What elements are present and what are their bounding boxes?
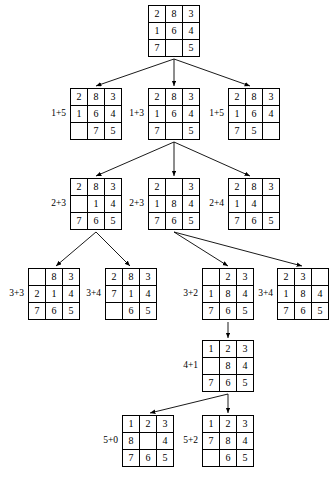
puzzle-row: 23 [203,269,254,286]
tree-edge [174,59,250,86]
puzzle-tile: 7 [106,286,123,303]
puzzle-tile: 6 [295,303,312,320]
puzzle-row: 14 [71,196,122,213]
puzzle-tile: 8 [123,433,140,450]
puzzle-blank-tile [203,269,220,286]
puzzle-tile: 5 [105,213,122,230]
puzzle-row: 23 [149,179,200,196]
puzzle-tile: 2 [229,179,246,196]
puzzle-tile: 3 [237,341,254,358]
puzzle-tile: 5 [183,123,200,140]
puzzle-row: 784 [203,433,254,450]
puzzle-row: 283 [106,269,157,286]
puzzle-blank-tile [166,179,183,196]
puzzle-tile: 7 [203,303,220,320]
puzzle-tile: 6 [46,303,63,320]
puzzle-grid: 28371465 [105,268,157,320]
puzzle-row: 283 [229,89,280,106]
puzzle-node: 3+223184765 [174,268,254,320]
puzzle-tile: 7 [149,40,166,57]
puzzle-tile: 4 [105,106,122,123]
puzzle-row: 765 [29,303,80,320]
puzzle-row: 765 [203,303,254,320]
puzzle-node: 3+423184765 [249,268,329,320]
node-cost-label: 1+5 [42,109,70,119]
puzzle-tile: 5 [157,450,174,467]
puzzle-tile: 2 [149,89,166,106]
node-cost-label: 5+2 [174,436,202,446]
puzzle-row: 283 [71,89,122,106]
puzzle-tile: 5 [183,40,200,57]
puzzle-tile: 2 [71,89,88,106]
puzzle-row: 765 [149,213,200,230]
puzzle-blank-tile [166,123,183,140]
puzzle-row: 283 [71,179,122,196]
puzzle-row: 214 [29,286,80,303]
puzzle-tile: 3 [263,89,280,106]
puzzle-tile: 1 [203,341,220,358]
puzzle-node: 2+328314765 [42,178,122,230]
puzzle-node: 5+012384765 [94,415,174,467]
puzzle-tile: 7 [29,303,46,320]
puzzle-tile: 7 [203,375,220,392]
puzzle-tile: 3 [295,269,312,286]
puzzle-tile: 7 [71,213,88,230]
puzzle-tile: 7 [149,123,166,140]
puzzle-row: 75 [149,123,200,140]
puzzle-grid: 28316475 [148,5,200,57]
puzzle-grid: 12378465 [202,415,254,467]
puzzle-tile: 7 [88,123,105,140]
puzzle-tile: 6 [123,303,140,320]
puzzle-tile: 3 [237,416,254,433]
puzzle-row: 83 [29,269,80,286]
edge-layer [0,0,335,479]
puzzle-blank-tile [312,269,329,286]
puzzle-node: 4+112384765 [174,340,254,392]
puzzle-tile: 2 [149,6,166,23]
puzzle-tile: 4 [237,358,254,375]
node-cost-label: 2+3 [42,199,70,209]
puzzle-grid: 12384765 [122,415,174,467]
puzzle-row: 184 [149,196,200,213]
puzzle-tile: 8 [220,358,237,375]
node-cost-label: 3+3 [0,289,28,299]
puzzle-tile: 5 [263,213,280,230]
puzzle-tile: 7 [149,213,166,230]
puzzle-tile: 2 [71,179,88,196]
puzzle-tile: 4 [183,196,200,213]
puzzle-row: 765 [71,213,122,230]
puzzle-tile: 8 [220,433,237,450]
puzzle-tile: 5 [105,123,122,140]
puzzle-tile: 3 [157,416,174,433]
puzzle-tile: 1 [203,416,220,433]
puzzle-tile: 8 [166,89,183,106]
puzzle-tile: 7 [229,213,246,230]
puzzle-blank-tile [71,196,88,213]
puzzle-row: 283 [149,89,200,106]
puzzle-row: 23 [278,269,329,286]
tree-edge [96,142,174,176]
puzzle-tile: 1 [203,286,220,303]
puzzle-tile: 5 [140,303,157,320]
puzzle-tile: 1 [88,196,105,213]
puzzle-row: 164 [149,106,200,123]
tree-edge [174,232,228,266]
puzzle-grid: 28316475 [228,88,280,140]
search-tree-diagram: 283164751+5283164751+3283164751+52831647… [0,0,335,479]
puzzle-blank-tile [140,433,157,450]
node-cost-label: 1+5 [200,109,228,119]
node-cost-label: 3+4 [249,289,277,299]
tree-edge [96,59,174,86]
puzzle-grid: 28314765 [228,178,280,230]
puzzle-tile: 7 [229,123,246,140]
puzzle-tile: 1 [229,106,246,123]
puzzle-tile: 8 [46,269,63,286]
puzzle-tile: 3 [105,89,122,106]
puzzle-tile: 2 [220,416,237,433]
puzzle-tile: 1 [123,286,140,303]
puzzle-tile: 1 [71,106,88,123]
puzzle-row: 123 [203,341,254,358]
node-cost-label: 4+1 [174,361,202,371]
puzzle-tile: 7 [278,303,295,320]
puzzle-row: 75 [71,123,122,140]
